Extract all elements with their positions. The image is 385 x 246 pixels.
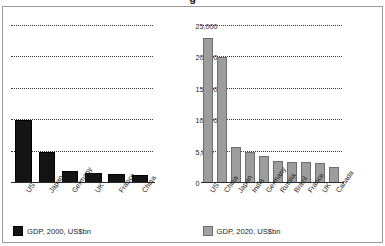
category-slot: China — [215, 185, 229, 221]
legend-label-gdp-2020: GDP, 2020, US$bn — [217, 227, 281, 236]
legend-gdp-2020: GDP, 2020, US$bn — [203, 226, 281, 236]
chart-panel-gdp-2000: 05,00010,00015,00020,00025,000 USJapanGe… — [3, 7, 193, 242]
category-slot: UK — [82, 185, 105, 221]
category-slot: Japan — [229, 185, 243, 221]
chart-page: g 05,00010,00015,00020,00025,000 USJapan… — [0, 0, 385, 246]
category-slot: Russia — [271, 185, 285, 221]
category-slot: France — [299, 185, 313, 221]
y-axis-labels-gdp-2020: 05,00010,00015,00020,00025,000 — [193, 13, 383, 183]
y-axis-labels-gdp-2000: 05,00010,00015,00020,00025,000 — [3, 13, 193, 183]
charts-container: 05,00010,00015,00020,00025,000 USJapanGe… — [3, 7, 382, 242]
category-slot: US — [202, 185, 216, 221]
chart-panel-gdp-2020: 05,00010,00015,00020,00025,000 USChinaJa… — [193, 7, 383, 242]
category-slot: Brazil — [285, 185, 299, 221]
x-axis-labels-gdp-2000: USJapanGermanyUKFranceChina — [11, 185, 153, 221]
category-slot: Canada — [327, 185, 341, 221]
category-slot: Germany — [59, 185, 82, 221]
category-slot: UK — [313, 185, 327, 221]
category-slot: India — [243, 185, 257, 221]
category-slot: Germany — [257, 185, 271, 221]
category-slot: US — [12, 185, 35, 221]
legend-swatch-icon — [13, 226, 23, 236]
category-slot: Japan — [35, 185, 58, 221]
category-slot: China — [128, 185, 151, 221]
x-axis-labels-gdp-2020: USChinaJapanIndiaGermanyRussiaBrazilFran… — [201, 185, 343, 221]
clipped-title-text: g — [189, 0, 196, 1]
legend-gdp-2000: GDP, 2000, US$bn — [13, 226, 91, 236]
legend-label-gdp-2000: GDP, 2000, US$bn — [27, 227, 91, 236]
legend-swatch-icon — [203, 226, 213, 236]
category-slot: France — [105, 185, 128, 221]
